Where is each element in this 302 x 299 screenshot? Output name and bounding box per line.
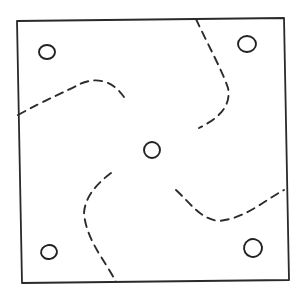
cut-line-bottom-right (176, 190, 284, 221)
cut-line-top-right (196, 19, 229, 128)
cut-line-bottom-left (84, 173, 116, 282)
hole-bottom-right (242, 237, 264, 259)
diagram-canvas: Square plate with four corner holes, cen… (0, 0, 302, 299)
hole-top-left (39, 45, 55, 59)
hole-bottom-left (40, 244, 58, 261)
cut-line-top-left (18, 80, 124, 115)
pinwheel-diagram (0, 0, 302, 299)
square-frame (17, 18, 289, 283)
hole-center (144, 142, 160, 158)
hole-top-right (238, 36, 256, 52)
